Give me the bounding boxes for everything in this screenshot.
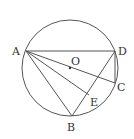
diagram-svg: A D C B O E (0, 0, 134, 139)
label-a: A (11, 45, 21, 58)
geometry-diagram: A D C B O E (0, 0, 134, 139)
label-d: D (118, 45, 127, 58)
segment-ab (26, 51, 72, 116)
label-c: C (117, 81, 125, 94)
label-e: E (90, 96, 98, 109)
label-o: O (71, 55, 80, 68)
label-b: B (67, 121, 75, 134)
